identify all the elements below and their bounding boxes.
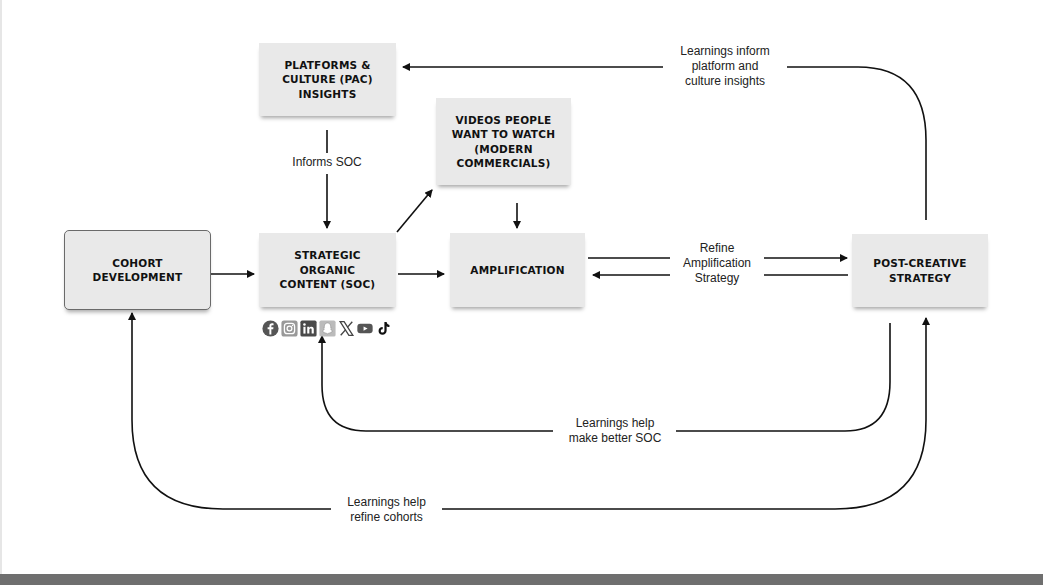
linkedin-icon: [299, 319, 317, 337]
tiktok-icon: [375, 319, 393, 337]
label-refine-amplification: Refine Amplification Strategy: [672, 241, 762, 286]
edge-post-soc-right: [676, 323, 890, 431]
facebook-icon: [261, 319, 279, 337]
bottom-bar: [0, 574, 1043, 585]
edge-post-pac-right: [787, 67, 926, 220]
label-informs-soc: Informs SOC: [276, 155, 378, 170]
social-icons-row: [261, 319, 393, 337]
snapchat-icon: [318, 319, 336, 337]
node-cohort-development: COHORT DEVELOPMENT: [64, 230, 211, 310]
x-icon: [337, 319, 355, 337]
node-strategic-organic-content: STRATEGIC ORGANIC CONTENT (SOC): [259, 233, 396, 307]
node-post-creative-strategy: POST-CREATIVE STRATEGY: [852, 234, 988, 307]
label-learnings-better-soc: Learnings help make better SOC: [556, 416, 674, 446]
instagram-icon: [280, 319, 298, 337]
label-learnings-refine-cohorts: Learnings help refine cohorts: [333, 495, 440, 525]
youtube-icon: [356, 319, 374, 337]
edge-loop-post: [442, 318, 926, 509]
edge-post-soc-left: [322, 336, 553, 431]
edge-soc-videos: [397, 190, 432, 232]
label-learnings-inform-pac: Learnings inform platform and culture in…: [665, 44, 785, 89]
node-amplification: AMPLIFICATION: [450, 233, 585, 307]
node-videos-people-want: VIDEOS PEOPLE WANT TO WATCH (MODERN COMM…: [436, 98, 571, 185]
edge-loop-cohort: [132, 313, 331, 509]
node-pac-insights: PLATFORMS & CULTURE (PAC) INSIGHTS: [259, 43, 396, 116]
